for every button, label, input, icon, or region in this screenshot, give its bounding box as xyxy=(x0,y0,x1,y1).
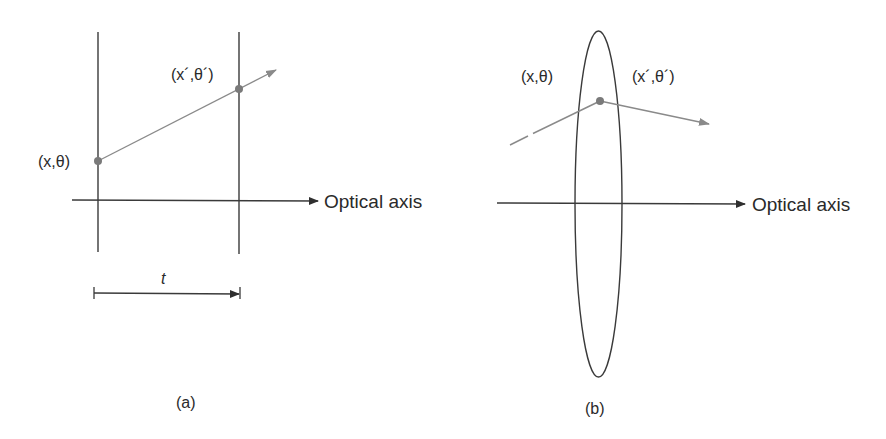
input-point-label: (x,θ) xyxy=(521,68,553,85)
outgoing-ray-arrow xyxy=(600,101,709,124)
panel-b-thin-lens: Optical axis (x,θ) (x´,θ´) (b) xyxy=(497,31,850,417)
panel-a-free-space: Optical axis (x,θ) (x´,θ´) t (a) xyxy=(38,32,422,411)
output-point-dot xyxy=(235,85,243,93)
distance-dimension: t xyxy=(94,270,240,299)
optics-ray-diagram: Optical axis (x,θ) (x´,θ´) t (a) Optical… xyxy=(0,0,886,439)
incoming-ray xyxy=(533,101,600,134)
panel-a-caption: (a) xyxy=(176,394,196,411)
lens-point-dot xyxy=(596,97,604,105)
distance-arrow xyxy=(94,293,239,294)
incoming-ray-segment xyxy=(510,136,528,145)
ray-arrow xyxy=(98,70,276,161)
optical-axis-label: Optical axis xyxy=(324,191,422,212)
distance-label: t xyxy=(161,270,166,287)
output-point-label: (x´,θ´) xyxy=(171,66,214,83)
optical-axis-arrow xyxy=(497,203,745,204)
optical-axis-arrow xyxy=(72,200,318,201)
input-point-label: (x,θ) xyxy=(38,153,70,170)
optical-axis-label: Optical axis xyxy=(752,194,850,215)
panel-b-caption: (b) xyxy=(585,400,605,417)
input-point-dot xyxy=(94,157,102,165)
output-point-label: (x´,θ´) xyxy=(632,68,675,85)
